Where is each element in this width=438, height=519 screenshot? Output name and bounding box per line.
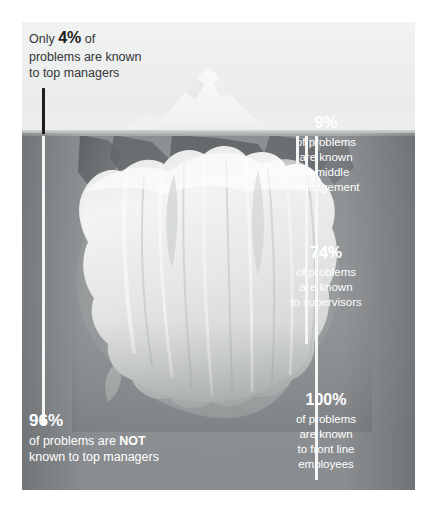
caption-middle-line1: of problems (268, 135, 384, 150)
caption-top-suffix: of (81, 32, 95, 46)
caption-top-managers: Only 4% of problems are known to top man… (29, 28, 219, 81)
bar-top-managers-above (42, 88, 45, 134)
caption-bottom-not: NOT (119, 434, 145, 448)
caption-frontline-line1: of problems (268, 412, 384, 427)
caption-top-line1: Only 4% of (29, 28, 219, 49)
caption-top-prefix: Only (29, 32, 58, 46)
caption-frontline-line2: are known (268, 427, 384, 442)
caption-supervisors-line1: of problems (268, 265, 384, 280)
caption-middle-value: 9% (268, 113, 384, 134)
caption-supervisors: 74% of problems are known to supervisors (268, 243, 384, 310)
caption-bottom-line1: of problems are NOT (29, 433, 249, 449)
caption-top-line3: to top managers (29, 65, 219, 81)
caption-front-line-employees: 100% of problems are known to front line… (268, 390, 384, 472)
caption-middle-management: 9% of problems are known to middle manag… (268, 113, 384, 195)
caption-frontline-line4: employees (268, 457, 384, 472)
caption-middle-line3: to middle (268, 165, 384, 180)
caption-bottom-value: 96% (29, 410, 249, 432)
caption-not-known-top-managers: 96% of problems are NOT known to top man… (29, 410, 249, 466)
caption-supervisors-value: 74% (268, 243, 384, 264)
caption-middle-line4: management (268, 180, 384, 195)
caption-top-value: 4% (58, 29, 81, 46)
caption-frontline-line3: to front line (268, 442, 384, 457)
caption-bottom-line1-text: of problems are (29, 434, 119, 448)
caption-middle-line2: are known (268, 150, 384, 165)
caption-bottom-line2: known to top managers (29, 449, 249, 465)
caption-frontline-value: 100% (268, 390, 384, 411)
bar-top-managers-below (42, 136, 45, 425)
caption-top-line2: problems are known (29, 49, 219, 65)
caption-supervisors-line2: are known (268, 280, 384, 295)
caption-supervisors-line3: to supervisors (268, 295, 384, 310)
